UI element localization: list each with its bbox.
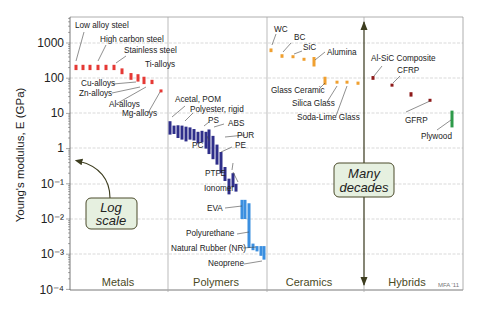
label-bc: BC	[294, 33, 305, 42]
modulus-bar	[193, 129, 196, 140]
youngs-modulus-chart: Young's modulus, E (GPa) 1000 100 10 1 1…	[0, 0, 483, 309]
category-hybrids: Hybrids	[388, 276, 426, 288]
y-tick-0.001: 10⁻³	[41, 247, 64, 261]
label-pur: PUR	[237, 131, 254, 140]
label-silica-glass: Silica Glass	[292, 99, 335, 108]
modulus-bar	[313, 57, 316, 66]
y-tick-0.0001: 10⁻⁴	[39, 283, 64, 297]
modulus-bar	[303, 58, 306, 61]
label-abs: ABS	[228, 119, 245, 128]
modulus-bar	[216, 145, 219, 165]
modulus-bar	[292, 55, 295, 58]
modulus-bar	[357, 82, 360, 85]
modulus-bar	[181, 126, 184, 140]
label-natural-rubber: Natural Rubber (NR)	[171, 244, 246, 253]
label-cfrp: CFRP	[397, 66, 420, 75]
category-labels: Metals Polymers Ceramics Hybrids	[102, 276, 426, 288]
label-low-alloy-steel: Low alloy steel	[75, 21, 129, 30]
label-neoprene: Neoprene	[208, 259, 244, 268]
modulus-bar	[169, 121, 172, 134]
label-zn-alloys: Zn-alloys	[79, 89, 112, 98]
modulus-bar	[173, 126, 176, 134]
log-scale-text-line2: scale	[96, 213, 126, 228]
y-tick-1: 1	[57, 141, 64, 155]
modulus-bar	[177, 125, 180, 138]
label-gfrp: GFRP	[405, 116, 428, 125]
y-tick-10: 10	[51, 106, 65, 120]
modulus-bar	[281, 54, 284, 58]
modulus-bar	[143, 77, 146, 84]
category-metals: Metals	[102, 276, 135, 288]
label-wc: WC	[274, 25, 288, 34]
material-labels: Low alloy steel High carbon steel Stainl…	[75, 21, 452, 268]
label-polyurethane: Polyurethane	[186, 229, 235, 238]
modulus-bar	[244, 200, 247, 219]
label-plywood: Plywood	[421, 132, 452, 141]
modulus-bar	[260, 246, 263, 256]
modulus-bar	[205, 132, 208, 149]
modulus-bar	[372, 76, 375, 80]
label-alumina: Alumina	[327, 48, 357, 57]
credit-mark: MFA '11	[438, 282, 460, 288]
modulus-bar	[97, 65, 100, 70]
category-polymers: Polymers	[193, 276, 239, 288]
y-tick-labels: 1000 100 10 1 10⁻¹ 10⁻² 10⁻³ 10⁻⁴	[37, 36, 64, 297]
modulus-bar	[137, 74, 140, 81]
modulus-bar	[241, 200, 244, 219]
modulus-bar	[89, 65, 92, 70]
modulus-bar	[160, 89, 163, 92]
modulus-bar	[235, 184, 238, 192]
label-sic: SiC	[303, 43, 316, 52]
category-ceramics: Ceramics	[286, 276, 333, 288]
modulus-bar	[82, 65, 85, 70]
y-axis-label: Young's modulus, E (GPa)	[14, 87, 26, 222]
label-al-alloys: Al-alloys	[109, 100, 140, 109]
modulus-bar	[130, 73, 133, 80]
label-glass-ceramic: Glass Ceramic	[271, 86, 325, 95]
modulus-bar	[410, 92, 413, 96]
label-pe: PE	[235, 141, 246, 150]
many-decades-text-line2: decades	[339, 180, 389, 195]
label-ti-alloys: Ti-alloys	[145, 60, 175, 69]
modulus-bar	[185, 127, 188, 142]
modulus-bar	[151, 80, 154, 84]
modulus-bar	[113, 65, 116, 70]
label-soda-lime-glass: Soda-Lime Glass	[297, 113, 360, 122]
modulus-bar	[336, 81, 339, 84]
modulus-bar	[105, 65, 108, 70]
label-high-carbon-steel: High carbon steel	[100, 35, 164, 44]
modulus-bar	[212, 136, 215, 159]
label-stainless-steel: Stainless steel	[124, 46, 177, 55]
modulus-bar	[248, 203, 251, 248]
log-scale-annotation: Log scale	[78, 161, 137, 229]
y-tick-100: 100	[44, 71, 64, 85]
label-acetal-pom: Acetal, POM	[175, 95, 221, 104]
modulus-bar	[121, 68, 124, 74]
label-al-sic-composite: Al-SiC Composite	[371, 54, 436, 63]
label-polyester-rigid: Polyester, rigid	[190, 105, 244, 114]
label-pc: PC	[192, 141, 203, 150]
label-ptfe: PTFE	[205, 169, 226, 178]
modulus-bar	[391, 84, 394, 87]
label-ionomer: Ionomer	[204, 184, 234, 193]
many-decades-text-line1: Many	[348, 166, 381, 181]
y-tick-0.1: 10⁻¹	[41, 177, 64, 191]
label-cu-alloys: Cu-alloys	[81, 79, 115, 88]
label-eva: EVA	[207, 204, 223, 213]
y-axis-minor-ticks	[66, 18, 70, 289]
modulus-bar	[75, 65, 78, 70]
modulus-bar	[270, 48, 273, 52]
y-tick-0.01: 10⁻²	[41, 212, 64, 226]
label-mg-alloys: Mg-alloys	[122, 109, 157, 118]
label-ps: PS	[208, 116, 219, 125]
modulus-bar	[208, 129, 211, 154]
modulus-bar	[189, 127, 192, 139]
modulus-bar	[346, 81, 349, 84]
modulus-bar	[451, 111, 454, 128]
y-tick-1000: 1000	[37, 36, 64, 50]
modulus-bar	[324, 77, 327, 85]
modulus-bar	[263, 246, 266, 260]
